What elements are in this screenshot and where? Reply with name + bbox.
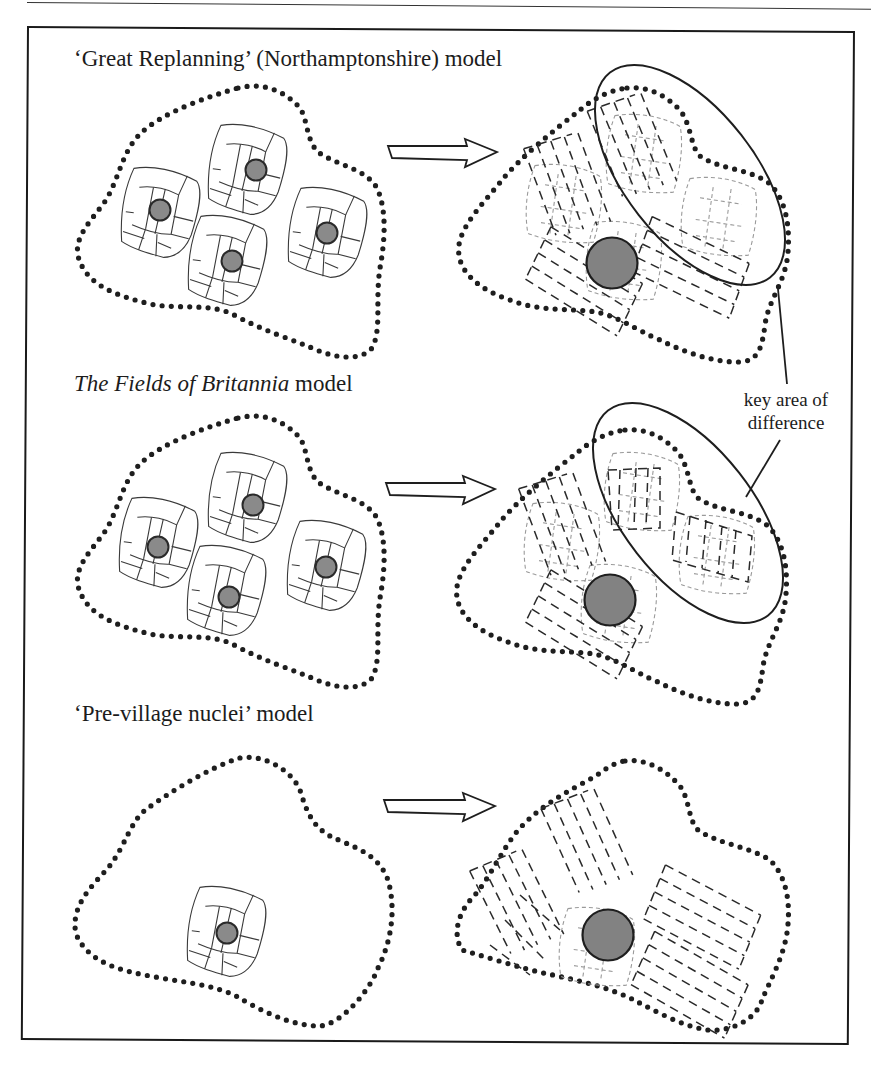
transition-arrow-icon <box>384 793 495 821</box>
diagram-canvas <box>0 0 871 1090</box>
callout-leader-line-bottom <box>746 440 780 497</box>
panel-fields-of-britannia-before <box>77 416 384 687</box>
nucleated-village-icon <box>585 575 636 626</box>
transition-arrow-icon <box>388 139 497 167</box>
dotted-boundary-icon <box>459 88 789 362</box>
dotted-boundary-icon <box>457 761 788 1031</box>
callout-leader-line-top <box>778 289 787 384</box>
figure-page: ‘Great Replanning’ (Northamptonshire) mo… <box>0 0 871 1090</box>
panel-great-replanning-after <box>459 33 822 362</box>
panel-great-replanning-before <box>77 86 384 357</box>
transition-arrow-icon <box>386 476 495 504</box>
nucleated-village-icon <box>583 910 634 961</box>
panel-pre-village-nuclei-after <box>457 761 788 1041</box>
nucleated-village-icon <box>587 238 638 289</box>
panel-pre-village-nuclei-before <box>75 757 392 1026</box>
panel-fields-of-britannia-after <box>457 371 820 704</box>
settlement-nucleus-icon <box>217 923 238 944</box>
